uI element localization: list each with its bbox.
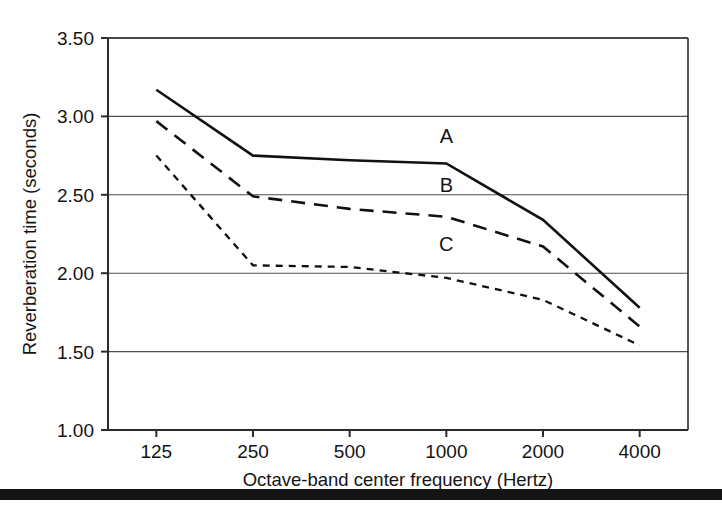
x-tick-label-group: 125250500100020004000 <box>140 441 660 462</box>
series-label-group: ABC <box>439 125 454 255</box>
y-axis-title: Reverberation time (seconds) <box>19 113 40 356</box>
x-tick-label-250: 250 <box>237 441 269 462</box>
y-tick-label-3.50: 3.50 <box>57 28 94 49</box>
y-tick-mark-group <box>101 38 108 430</box>
x-tick-label-1000: 1000 <box>425 441 467 462</box>
x-tick-label-4000: 4000 <box>619 441 661 462</box>
series-label-B: B <box>440 174 453 196</box>
series-line-A <box>156 90 639 308</box>
series-label-A: A <box>440 125 454 147</box>
y-tick-label-1.00: 1.00 <box>57 420 94 441</box>
series-line-C <box>156 156 639 346</box>
x-tick-label-2000: 2000 <box>522 441 564 462</box>
y-tick-label-1.50: 1.50 <box>57 342 94 363</box>
x-tick-label-125: 125 <box>140 441 172 462</box>
data-series-group <box>156 90 639 346</box>
x-tick-mark-group <box>156 430 639 437</box>
plot-frame <box>108 38 688 430</box>
bottom-rule <box>0 489 722 500</box>
gridline-group <box>108 38 688 352</box>
reverberation-time-line-chart: 1.001.502.002.503.003.50 125250500100020… <box>0 0 722 508</box>
figure-container: 1.001.502.002.503.003.50 125250500100020… <box>0 0 722 508</box>
y-tick-label-3.00: 3.00 <box>57 106 94 127</box>
y-tick-label-2.00: 2.00 <box>57 263 94 284</box>
series-label-C: C <box>439 233 453 255</box>
series-line-B <box>156 121 639 326</box>
y-tick-label-group: 1.001.502.002.503.003.50 <box>57 28 94 441</box>
y-tick-label-2.50: 2.50 <box>57 185 94 206</box>
x-axis-title: Octave-band center frequency (Hertz) <box>243 469 554 490</box>
x-tick-label-500: 500 <box>334 441 366 462</box>
